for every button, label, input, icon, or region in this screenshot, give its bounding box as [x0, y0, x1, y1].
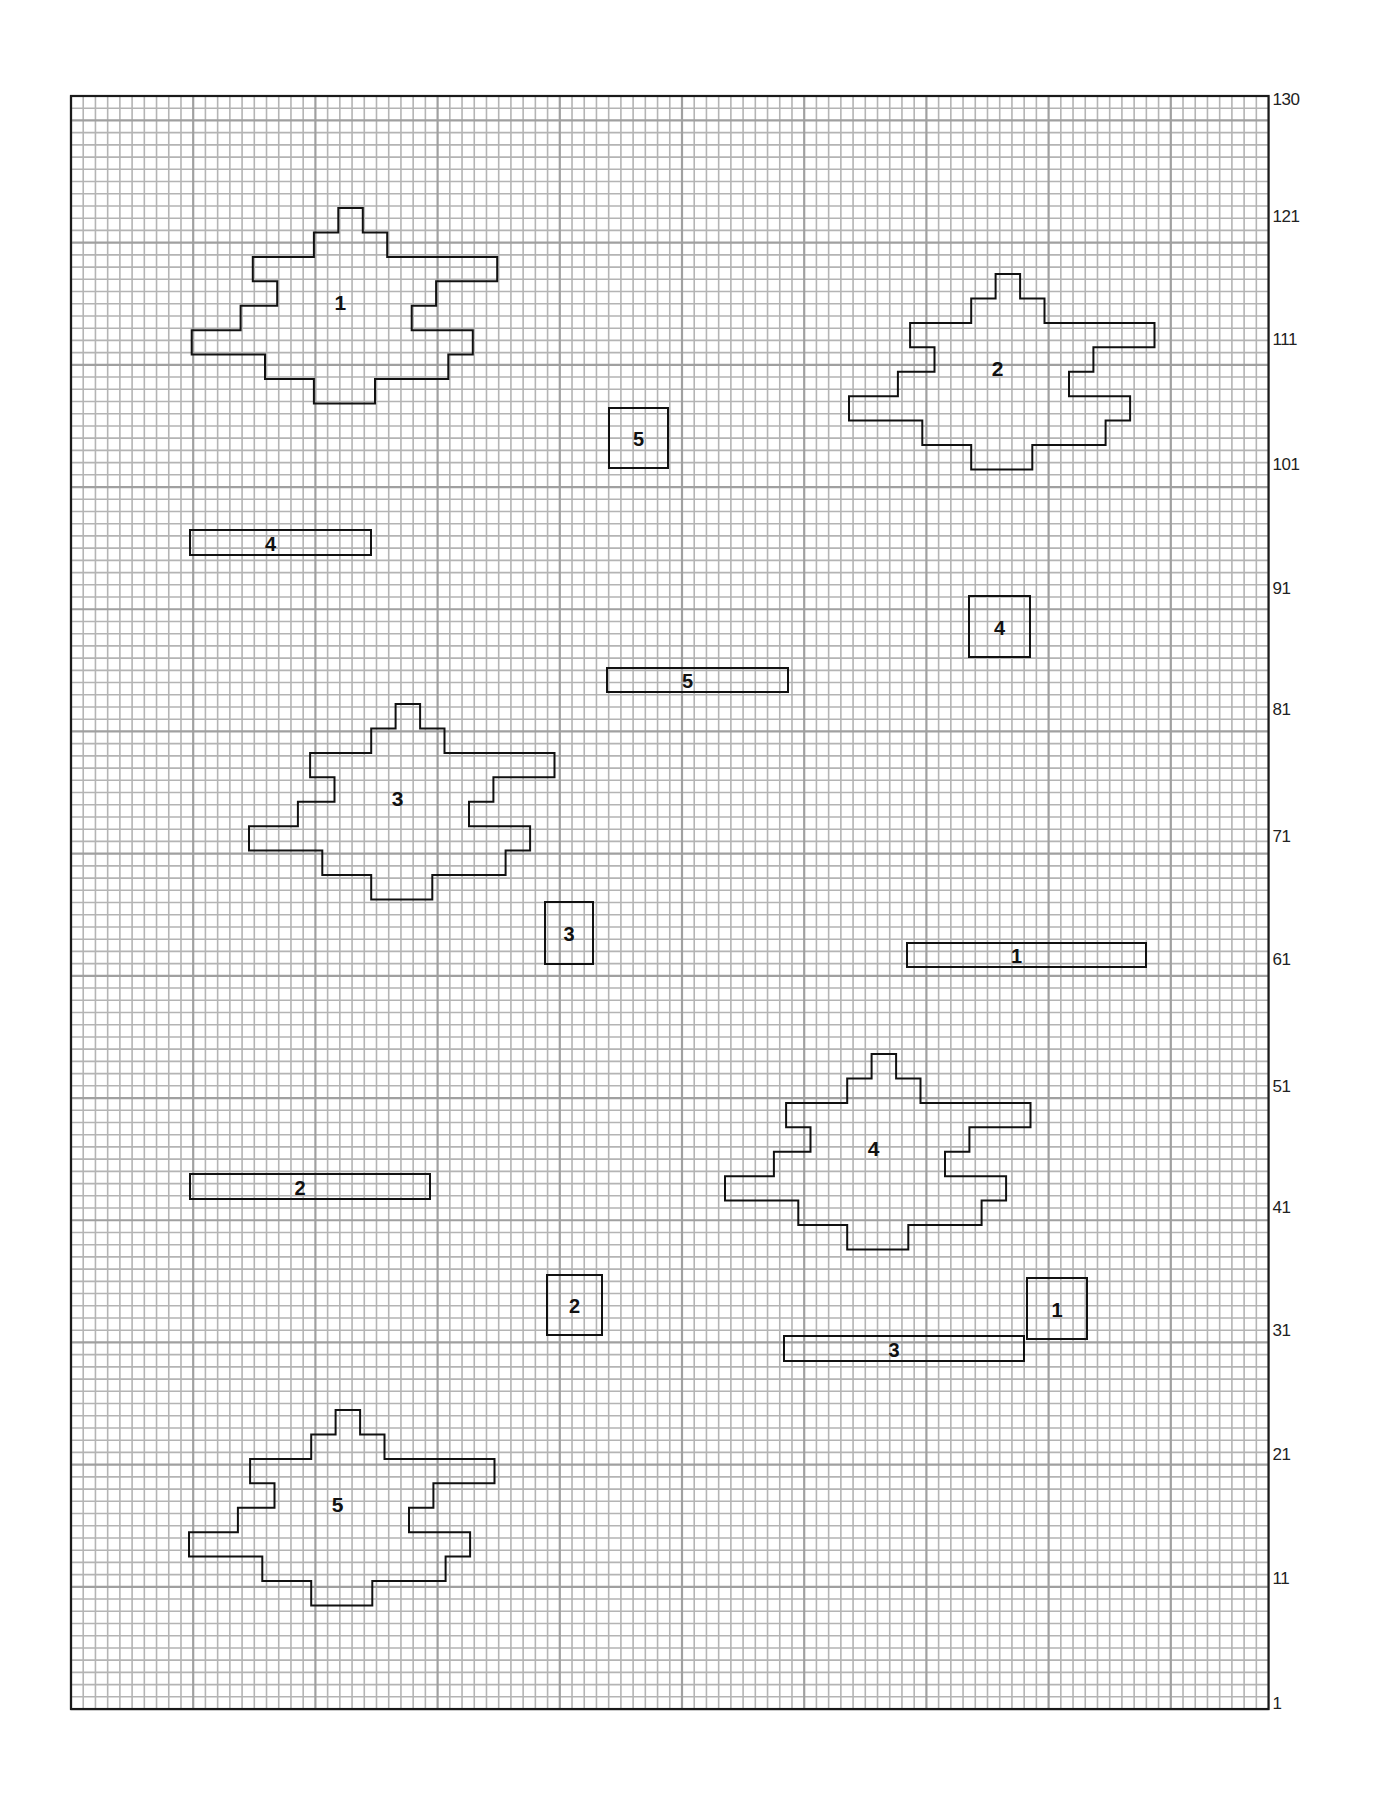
piece-number-label: 1	[334, 291, 346, 314]
strip-piece-5: 5	[607, 668, 788, 692]
piece-number-label: 3	[888, 1339, 899, 1361]
square-piece-3: 3	[545, 902, 593, 964]
piece-number-label: 1	[1011, 945, 1022, 967]
row-label: 61	[1273, 950, 1291, 970]
piece-number-label: 4	[265, 533, 277, 555]
row-label: 81	[1273, 700, 1291, 720]
piece-number-label: 2	[992, 357, 1004, 380]
row-label: 101	[1273, 455, 1300, 475]
piece-number-label: 5	[682, 670, 693, 692]
row-label: 41	[1273, 1198, 1291, 1218]
piece-number-label: 1	[1051, 1299, 1062, 1321]
star-piece-1: 1	[192, 208, 498, 404]
star-piece-3: 3	[249, 704, 555, 900]
row-label: 1	[1273, 1694, 1282, 1714]
row-label: 11	[1273, 1569, 1290, 1589]
row-label: 71	[1273, 827, 1291, 847]
piece-number-label: 2	[294, 1177, 305, 1199]
piece-number-label: 2	[569, 1295, 580, 1317]
row-label: 31	[1273, 1321, 1291, 1341]
row-label: 91	[1273, 579, 1291, 599]
piece-outline	[607, 668, 788, 692]
row-label: 51	[1273, 1077, 1291, 1097]
piece-number-label: 3	[563, 923, 574, 945]
piece-number-label: 5	[332, 1493, 344, 1516]
piece-number-label: 3	[392, 787, 404, 810]
row-label: 111	[1273, 330, 1297, 350]
piece-number-label: 5	[633, 428, 644, 450]
piece-number-label: 4	[994, 617, 1006, 639]
row-label: 121	[1273, 207, 1300, 227]
star-piece-5: 5	[189, 1410, 495, 1606]
piece-number-label: 4	[868, 1137, 880, 1160]
row-label: 130	[1273, 90, 1300, 110]
row-label: 21	[1273, 1445, 1291, 1465]
plastic-canvas-chart: 123455432145123	[0, 0, 1376, 1802]
pattern-pieces: 123455432145123	[189, 208, 1155, 1606]
